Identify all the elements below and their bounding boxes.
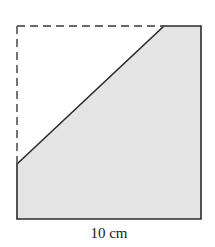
side-length-label: 10 cm xyxy=(90,225,127,242)
shaded-pentagon xyxy=(17,26,201,219)
cut-square-diagram xyxy=(0,0,215,247)
